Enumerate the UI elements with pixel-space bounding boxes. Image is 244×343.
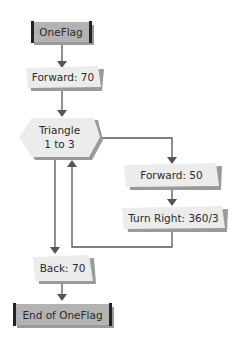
- turn-label: Turn Right: 360/3: [122, 212, 225, 224]
- forward70-label: Forward: 70: [26, 71, 100, 83]
- end-label: End of OneFlag: [14, 309, 111, 321]
- loop-label-line2: 1 to 3: [19, 138, 100, 150]
- forward50-label: Forward: 50: [124, 169, 219, 181]
- loop-label-line1: Triangle: [19, 124, 100, 136]
- start-label: OneFlag: [31, 26, 91, 38]
- back70-label: Back: 70: [33, 262, 92, 274]
